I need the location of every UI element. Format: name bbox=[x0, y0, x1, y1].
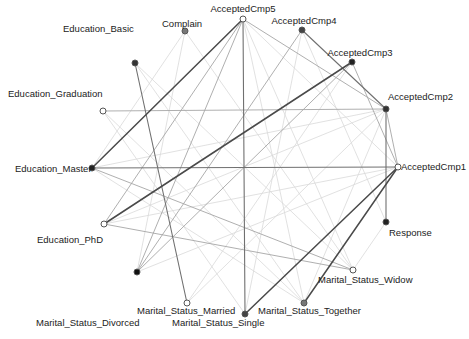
edge-AcceptedCmp1-Education_Master bbox=[92, 167, 398, 168]
edge-Education_Master-Marital_Status_Together bbox=[92, 168, 304, 303]
edge-AcceptedCmp4-Marital_Status_Single bbox=[245, 30, 302, 314]
node-AcceptedCmp4[interactable] bbox=[299, 27, 305, 33]
node-Response[interactable] bbox=[383, 219, 389, 225]
edge-AcceptedCmp5-AcceptedCmp2 bbox=[243, 19, 386, 109]
node-label-Complain: Complain bbox=[162, 18, 202, 29]
node-label-AcceptedCmp5: AcceptedCmp5 bbox=[211, 3, 276, 14]
node-label-Response: Response bbox=[389, 227, 432, 238]
node-label-Education_Graduation: Education_Graduation bbox=[8, 88, 103, 99]
edge-AcceptedCmp4-Marital_Status_Divorced bbox=[137, 30, 302, 272]
node-label-Education_PhD: Education_PhD bbox=[37, 234, 103, 245]
edge-AcceptedCmp2-AcceptedCmp1 bbox=[386, 109, 398, 167]
node-label-AcceptedCmp1: AcceptedCmp1 bbox=[401, 161, 466, 172]
edge-Complain-Marital_Status_Divorced bbox=[137, 31, 185, 272]
node-label-Marital_Status_Single: Marital_Status_Single bbox=[172, 317, 264, 328]
node-label-AcceptedCmp4: AcceptedCmp4 bbox=[272, 15, 337, 26]
node-AcceptedCmp2[interactable] bbox=[383, 106, 389, 112]
node-AcceptedCmp5[interactable] bbox=[240, 16, 246, 22]
node-label-AcceptedCmp3: AcceptedCmp3 bbox=[328, 47, 393, 58]
edge-AcceptedCmp5-Education_PhD bbox=[104, 19, 243, 224]
edge-Education_Basic-Marital_Status_Together bbox=[135, 63, 304, 303]
node-label-Education_Basic: Education_Basic bbox=[63, 23, 134, 34]
node-label-AcceptedCmp2: AcceptedCmp2 bbox=[388, 91, 453, 102]
network-graph: AcceptedCmp5AcceptedCmp4AcceptedCmp3Acce… bbox=[0, 0, 469, 339]
edge-AcceptedCmp4-AcceptedCmp2 bbox=[302, 30, 386, 109]
edge-AcceptedCmp2-Education_Master bbox=[92, 109, 386, 168]
node-label-Education_Master: Education_Master bbox=[15, 163, 92, 174]
edge-Response-Marital_Status_Widow bbox=[353, 222, 386, 270]
node-label-Marital_Status_Widow: Marital_Status_Widow bbox=[318, 274, 413, 285]
node-AcceptedCmp3[interactable] bbox=[349, 59, 355, 65]
edge-AcceptedCmp1-Marital_Status_Divorced bbox=[137, 167, 398, 272]
node-Education_Graduation[interactable] bbox=[100, 108, 106, 114]
node-Marital_Status_Divorced[interactable] bbox=[134, 269, 140, 275]
edge-AcceptedCmp5-Education_Master bbox=[92, 19, 243, 168]
node-Marital_Status_Widow[interactable] bbox=[350, 267, 356, 273]
node-Education_PhD[interactable] bbox=[101, 221, 107, 227]
edge-AcceptedCmp5-Marital_Status_Together bbox=[243, 19, 304, 303]
node-label-Marital_Status_Together: Marital_Status_Together bbox=[258, 305, 361, 316]
node-Education_Basic[interactable] bbox=[132, 60, 138, 66]
node-label-Marital_Status_Married: Marital_Status_Married bbox=[137, 305, 235, 316]
node-label-Marital_Status_Divorced: Marital_Status_Divorced bbox=[36, 317, 140, 328]
